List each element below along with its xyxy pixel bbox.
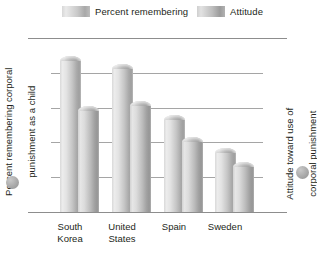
- gridline-0: [28, 212, 287, 213]
- legend-item-attitude: Attitude: [197, 6, 263, 17]
- legend-label-percent-remembering: Percent remembering: [95, 6, 188, 17]
- legend-item-percent-remembering: Percent remembering: [62, 6, 188, 17]
- bar-body: [130, 106, 151, 212]
- x-category-line1: Sweden: [190, 221, 260, 233]
- bar-united-states-attitude: [130, 101, 151, 212]
- bar-spain-attitude: [182, 137, 203, 212]
- left-axis-marker-dot-icon: [6, 176, 19, 189]
- y-axis-title-left-line2: punishment as a child: [26, 57, 38, 207]
- y-axis-title-right-line1: Attitude toward use of: [284, 89, 296, 219]
- bar-south-korea-attitude: [78, 106, 99, 212]
- y-axis-title-right-line2: corporal punishment: [307, 89, 317, 219]
- bar-body: [182, 142, 203, 212]
- chart-container: Percent remembering Attitude 100 80 60 4…: [0, 0, 317, 264]
- right-axis-marker-dot-icon: [296, 166, 309, 179]
- legend-swatch-percent-remembering: [62, 6, 90, 17]
- gridline-100: [28, 38, 287, 39]
- x-category-label-sweden: Sweden: [190, 221, 260, 233]
- y-axis-title-right: Attitude toward use of corporal punishme…: [272, 89, 317, 219]
- bar-body: [78, 111, 99, 212]
- x-category-line2: States: [87, 233, 157, 245]
- gridline-80: [51, 73, 263, 74]
- legend-swatch-attitude: [197, 6, 225, 17]
- plot-area: 100 80 60 40 20 0 5 4 3 2 1 0: [51, 38, 263, 212]
- legend-label-attitude: Attitude: [230, 6, 263, 17]
- bar-sweden-attitude: [233, 162, 254, 212]
- bar-body: [233, 167, 254, 212]
- chart-legend: Percent remembering Attitude: [0, 4, 317, 22]
